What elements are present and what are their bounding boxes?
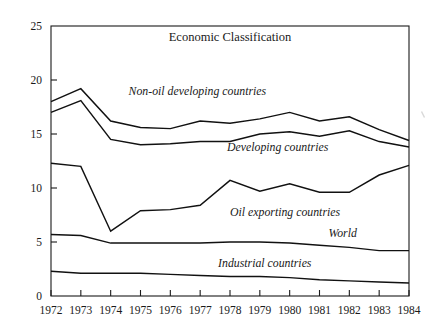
y-axis-tick-labels: 0510152025 bbox=[31, 20, 43, 302]
x-tick-label-1984: 1984 bbox=[398, 304, 421, 316]
x-tick-label-1978: 1978 bbox=[219, 304, 242, 316]
x-tick-label-1981: 1981 bbox=[308, 304, 331, 316]
x-tick-label-1976: 1976 bbox=[159, 304, 182, 316]
series-label-1: Developing countries bbox=[226, 140, 329, 154]
series-label-0: Non-oil developing countries bbox=[128, 84, 267, 98]
economic-classification-line-chart: 0510152025 19721973197419751976197719781… bbox=[0, 0, 437, 331]
series-line-2 bbox=[51, 163, 409, 231]
series-lines-group bbox=[51, 89, 409, 283]
y-tick-label-5: 5 bbox=[36, 236, 42, 248]
scan-artifact-speck bbox=[421, 111, 425, 118]
x-axis-tick-labels: 1972197319741975197619771978197919801981… bbox=[40, 304, 421, 316]
x-tick-label-1977: 1977 bbox=[189, 304, 212, 316]
x-tick-label-1979: 1979 bbox=[248, 304, 271, 316]
figure-container: 0510152025 19721973197419751976197719781… bbox=[0, 0, 437, 331]
y-tick-label-25: 25 bbox=[31, 20, 43, 32]
x-tick-label-1982: 1982 bbox=[338, 304, 361, 316]
x-tick-label-1973: 1973 bbox=[69, 304, 92, 316]
chart-title: Economic Classification bbox=[169, 30, 292, 44]
y-tick-label-0: 0 bbox=[36, 290, 42, 302]
x-tick-label-1983: 1983 bbox=[368, 304, 391, 316]
series-label-3: World bbox=[328, 226, 357, 240]
x-tick-label-1974: 1974 bbox=[99, 304, 122, 316]
y-tick-label-20: 20 bbox=[31, 74, 43, 86]
x-axis-ticks bbox=[51, 290, 409, 296]
x-tick-label-1975: 1975 bbox=[129, 304, 152, 316]
x-tick-label-1972: 1972 bbox=[40, 304, 63, 316]
y-tick-label-10: 10 bbox=[31, 182, 43, 194]
x-tick-label-1980: 1980 bbox=[278, 304, 301, 316]
series-line-4 bbox=[51, 271, 409, 283]
series-label-4: Industrial countries bbox=[217, 256, 312, 270]
series-label-2: Oil exporting countries bbox=[230, 205, 340, 219]
y-axis-ticks bbox=[51, 80, 57, 242]
y-tick-label-15: 15 bbox=[31, 128, 43, 140]
